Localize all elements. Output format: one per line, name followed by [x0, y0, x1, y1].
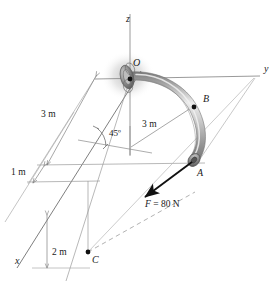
guide-line-A-to-y	[196, 78, 255, 165]
force-equals: =	[151, 199, 161, 209]
axis-label-x: x	[15, 256, 19, 266]
guide-line-C-to-y	[88, 78, 254, 252]
angle-ray-horizontal	[78, 140, 152, 153]
dimension-line-3m-radius	[131, 108, 191, 147]
point-dot-C	[86, 250, 91, 255]
axis-label-z: z	[126, 14, 130, 24]
axis-x-line	[17, 71, 141, 268]
figure-canvas	[0, 0, 278, 292]
dimension-label-1m: 1 m	[11, 168, 26, 178]
angle-arc-tick-upper	[93, 126, 99, 129]
point-label-O: O	[133, 58, 140, 68]
construction-line-x-parallel-outer	[28, 75, 97, 184]
point-label-A: A	[197, 168, 203, 178]
dimension-label-2m: 2 m	[52, 248, 67, 258]
ref-line-horizontal-lower	[27, 181, 100, 182]
axis-label-y: y	[264, 64, 268, 74]
point-label-B: B	[203, 94, 209, 104]
ref-line-horizontal-A	[37, 163, 205, 165]
dimension-line-3m-left	[47, 76, 96, 165]
dimension-label-3m-radius: 3 m	[142, 120, 157, 130]
angle-label-45: 45º	[109, 129, 121, 138]
point-dot-B	[192, 105, 197, 110]
statics-figure: z y x O B A C 3 m 3 m 1 m 2 m 45º F = 80…	[0, 0, 278, 292]
force-label: F = 80 N	[145, 200, 180, 210]
dimension-label-3m-left: 3 m	[41, 110, 56, 120]
point-dot-O	[128, 77, 133, 82]
force-magnitude: 80 N	[161, 199, 180, 209]
point-label-C: C	[92, 255, 99, 265]
